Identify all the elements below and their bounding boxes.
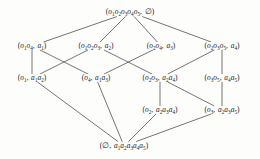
lattice-node-n13: (o2o4, a3)	[146, 42, 176, 49]
lattice-node-n11: (o1o4, a1)	[17, 42, 47, 49]
lattice-node-n31: (o2, a2a3a4)	[142, 106, 178, 113]
lattice-node-n22: (o4, a1a3)	[81, 74, 111, 81]
lattice-edge-n32-bottom	[137, 114, 211, 141]
lattice-node-top: (o1o2o3o4o5, ∅)	[105, 8, 154, 16]
lattice-edge-n31-bottom	[129, 114, 156, 141]
lattice-node-n14: (o2o3o5, a4)	[204, 42, 240, 49]
lattice-edge-top-n13	[134, 17, 157, 42]
lattice-edge-n22-bottom	[98, 82, 122, 141]
concept-lattice-diagram: (o1o2o3o4o5, ∅)(o1o4, a1)(o1o2o3, a2)(o2…	[0, 0, 260, 159]
lattice-node-n32: (o3, a2a3a5)	[204, 106, 240, 113]
lattice-edge-n14-n23	[168, 50, 214, 74]
lattice-node-n12: (o1o2o3, a2)	[78, 42, 114, 49]
lattice-edge-top-n11	[44, 17, 117, 42]
lattice-edge-top-n12	[100, 17, 125, 42]
lattice-edge-top-n14	[142, 17, 210, 42]
lattice-edge-n23-n32	[168, 82, 214, 106]
lattice-node-n21: (o1, a1a2)	[17, 74, 47, 81]
lattice-node-n23: (o2o3, a2a4)	[142, 74, 178, 81]
lattice-edge-n21-bottom	[38, 82, 118, 141]
lattice-node-bottom: (∅, a1a2a3a4a5)	[99, 142, 148, 150]
lattice-node-n24: (o3o5, a4a5)	[204, 74, 240, 81]
